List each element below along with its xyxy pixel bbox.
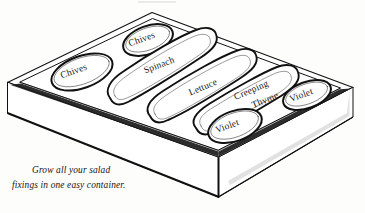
caption-line-1: Grow all your salad <box>12 163 162 178</box>
caption: Grow all your salad fixings in one easy … <box>12 163 162 192</box>
illustration-canvas: Chives Chives Spinach Lettuce Creeping T… <box>0 0 365 213</box>
caption-line-2: fixings in one easy container. <box>12 178 162 193</box>
